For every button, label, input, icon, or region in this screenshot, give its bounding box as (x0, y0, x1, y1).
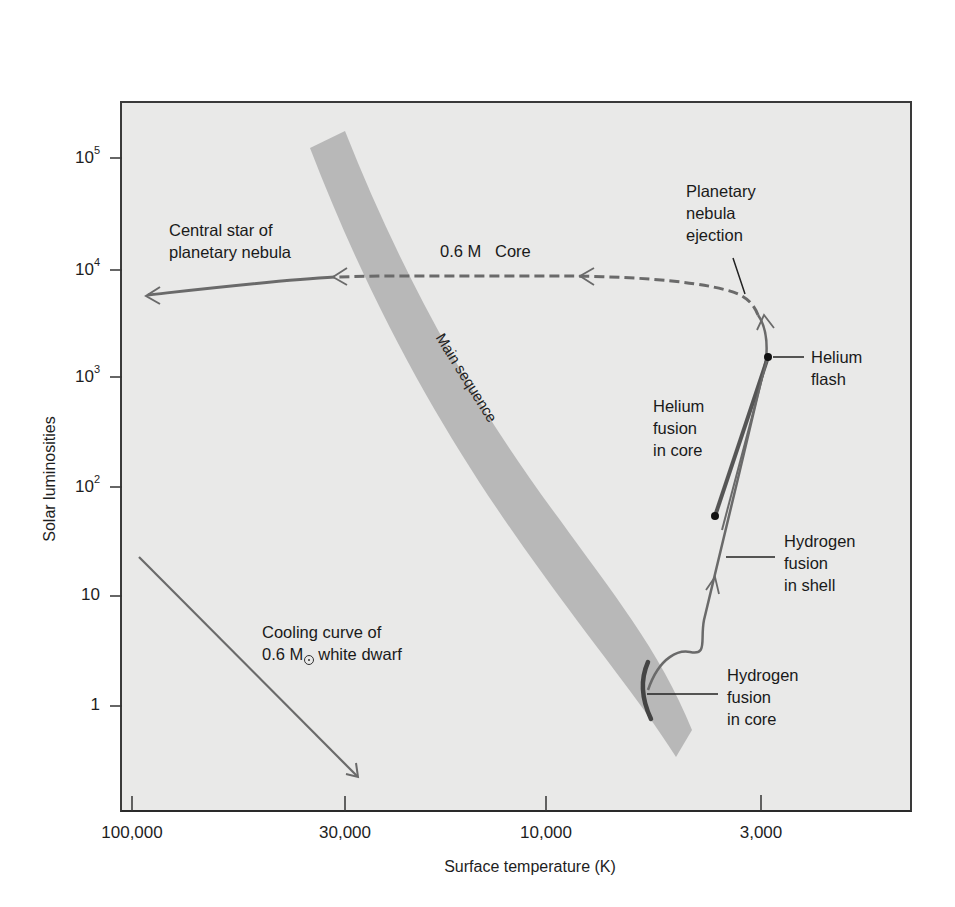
x-tick-label: 3,000 (701, 823, 821, 843)
cooling-line2: white dwarf (318, 645, 401, 663)
x-tick-label: 10,000 (486, 823, 606, 843)
cooling-mass: 0.6 M (262, 645, 303, 663)
y-tick-label: 105 (40, 146, 100, 168)
y-tick-label: 104 (40, 258, 100, 280)
label-helium-flash: Helium flash (811, 346, 862, 390)
hr-diagram-figure: 105 104 103 102 10 1 100,000 30,000 10,0… (0, 0, 955, 907)
label-hydrogen-shell: Hydrogen fusion in shell (784, 530, 856, 596)
helium-core-segment (715, 357, 768, 516)
y-axis-title: Solar luminosities (41, 379, 59, 579)
label-hydrogen-core: Hydrogen fusion in core (727, 664, 799, 730)
label-helium-core: Helium fusion in core (653, 395, 704, 461)
label-cooling-curve: Cooling curve of 0.6 Mwhite dwarf (262, 621, 402, 665)
y-tick-label: 10 (40, 585, 100, 605)
cooling-curve-line (139, 557, 357, 776)
solar-mass-symbol-icon (304, 655, 314, 665)
central-star-track (148, 277, 335, 295)
label-pn-ejection: Planetary nebula ejection (686, 180, 756, 246)
helium-flash-marker (764, 353, 772, 361)
chart-graphics (0, 0, 955, 907)
helium-ignition-marker (711, 512, 719, 520)
horizontal-branch-return (722, 360, 767, 530)
x-tick-label: 30,000 (285, 823, 405, 843)
x-tick-label: 100,000 (72, 823, 192, 843)
red-giant-branch-track (648, 315, 767, 690)
x-axis-title: Surface temperature (K) (330, 858, 730, 876)
leader-pn-ejection (733, 258, 745, 294)
label-central-star: Central star of planetary nebula (169, 219, 291, 263)
y-tick-label: 1 (40, 695, 100, 715)
x-axis-ticks (132, 795, 761, 811)
label-core-mass: 0.6 M Core (440, 240, 531, 262)
y-axis-ticks (110, 158, 122, 706)
cooling-line1: Cooling curve of (262, 623, 381, 641)
